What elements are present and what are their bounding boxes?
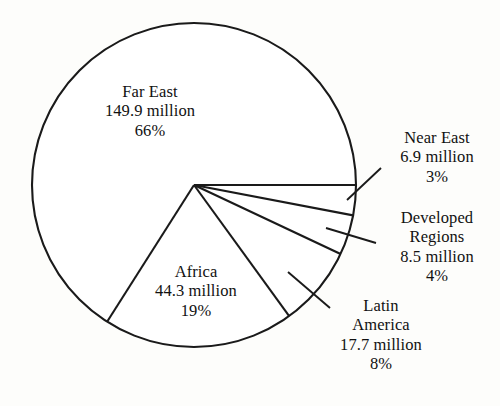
slice-label-far-east-name: Far East bbox=[68, 82, 232, 101]
slice-label-far-east: Far East 149.9 million 66% bbox=[68, 82, 232, 140]
slice-label-near-east-name: Near East bbox=[378, 128, 496, 147]
slice-label-developed-regions-name-line1: Developed bbox=[376, 208, 498, 227]
slice-label-africa-name: Africa bbox=[118, 262, 274, 281]
slice-label-latin-america-name-line2: America bbox=[322, 315, 440, 334]
pie-chart-figure: Far East 149.9 million 66% Near East 6.9… bbox=[0, 0, 500, 406]
slice-label-africa: Africa 44.3 million 19% bbox=[118, 262, 274, 320]
slice-label-near-east-percent: 3% bbox=[378, 167, 496, 186]
slice-label-developed-regions-value: 8.5 million bbox=[376, 247, 498, 266]
slice-label-developed-regions-percent: 4% bbox=[376, 266, 498, 285]
slice-label-latin-america-value: 17.7 million bbox=[322, 335, 440, 354]
slice-label-near-east-value: 6.9 million bbox=[378, 147, 496, 166]
slice-label-developed-regions: Developed Regions 8.5 million 4% bbox=[376, 208, 498, 286]
slice-label-latin-america: Latin America 17.7 million 8% bbox=[322, 296, 440, 374]
slice-label-far-east-percent: 66% bbox=[68, 121, 232, 140]
slice-label-developed-regions-name-line2: Regions bbox=[376, 227, 498, 246]
slice-label-latin-america-percent: 8% bbox=[322, 354, 440, 373]
slice-label-near-east: Near East 6.9 million 3% bbox=[378, 128, 496, 186]
slice-label-latin-america-name-line1: Latin bbox=[322, 296, 440, 315]
slice-label-far-east-value: 149.9 million bbox=[68, 101, 232, 120]
slice-label-africa-percent: 19% bbox=[118, 301, 274, 320]
slice-label-africa-value: 44.3 million bbox=[118, 281, 274, 300]
